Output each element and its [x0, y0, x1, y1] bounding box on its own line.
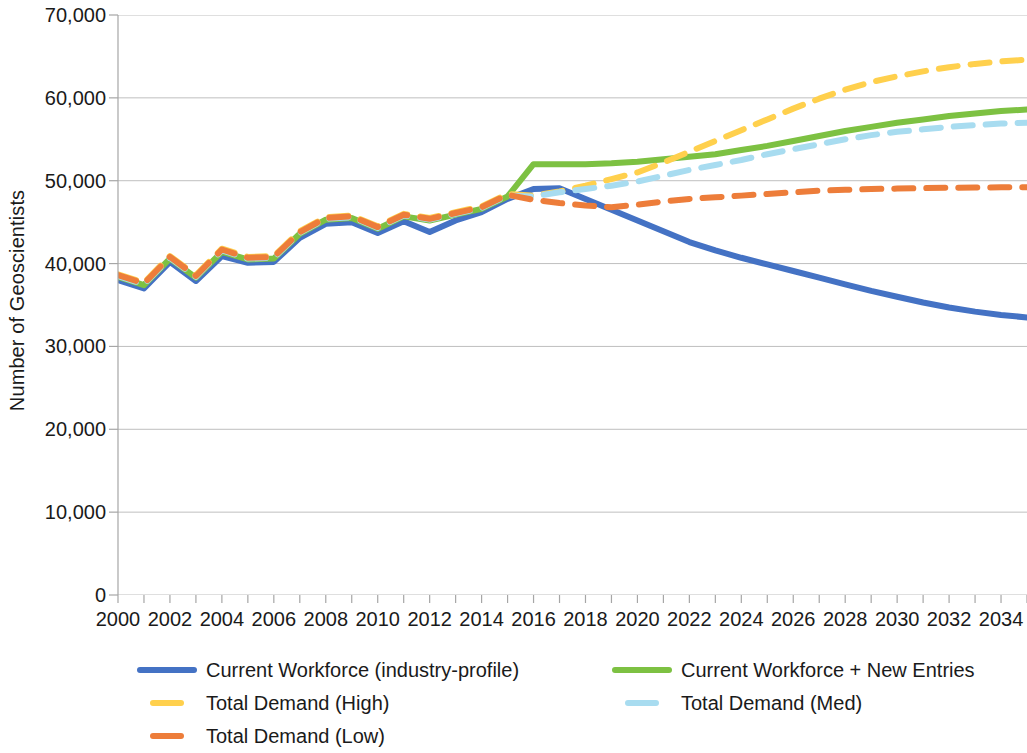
x-axis-tick-label: 2006 [252, 608, 297, 631]
y-axis-title-label: Number of Geoscientists [7, 189, 30, 410]
y-axis-tick-labels: 010,00020,00030,00040,00050,00060,00070,… [36, 0, 114, 620]
y-axis-tick-label: 40,000 [45, 252, 106, 275]
x-axis-tick-label: 2012 [407, 608, 452, 631]
chart-legend: Current Workforce (industry-profile)Curr… [0, 655, 1027, 753]
series-line-4 [118, 187, 1027, 283]
legend-swatch-icon [612, 667, 672, 673]
x-axis-ticks [118, 595, 1027, 603]
gridlines [118, 15, 1027, 595]
x-axis-tick-label: 2030 [875, 608, 920, 631]
x-axis-tick-label: 2000 [96, 608, 141, 631]
x-axis-tick-label: 2022 [667, 608, 712, 631]
legend-item[interactable]: Total Demand (Med) [612, 688, 862, 718]
y-axis-tick-label: 30,000 [45, 335, 106, 358]
y-axis-tick-label: 0 [95, 584, 106, 607]
x-axis-tick-label: 2018 [563, 608, 608, 631]
x-axis-tick-label: 2028 [823, 608, 868, 631]
x-axis-tick-label: 2010 [355, 608, 400, 631]
y-axis-title: Number of Geoscientists [0, 0, 36, 600]
series-lines [118, 60, 1027, 318]
y-axis-tick-label: 70,000 [45, 4, 106, 27]
series-line-0 [118, 188, 1027, 317]
plot-svg [118, 15, 1027, 595]
x-axis-tick-label: 2034 [979, 608, 1024, 631]
series-line-2 [118, 60, 1027, 283]
x-axis-tick-label: 2004 [200, 608, 245, 631]
y-axis-tick-label: 60,000 [45, 86, 106, 109]
legend-item[interactable]: Current Workforce (industry-profile) [137, 655, 519, 685]
x-axis-tick-label: 2032 [927, 608, 972, 631]
legend-swatch-icon [150, 733, 184, 739]
y-axis-tick-label: 20,000 [45, 418, 106, 441]
legend-item-label: Total Demand (High) [206, 693, 389, 713]
legend-item[interactable]: Total Demand (Low) [137, 721, 385, 751]
legend-item-label: Current Workforce (industry-profile) [206, 660, 519, 680]
y-axis-tick-label: 50,000 [45, 169, 106, 192]
legend-item[interactable]: Current Workforce + New Entries [612, 655, 975, 685]
legend-item-label: Total Demand (Low) [206, 726, 385, 746]
legend-item[interactable]: Total Demand (High) [137, 688, 389, 718]
x-axis-tick-label: 2026 [771, 608, 816, 631]
x-axis-tick-label: 2020 [615, 608, 660, 631]
legend-swatch-icon [150, 700, 184, 706]
plot-area [118, 15, 1027, 595]
legend-swatch-icon [625, 700, 659, 706]
geoscientist-workforce-chart: Number of Geoscientists 010,00020,00030,… [0, 0, 1027, 753]
x-axis-tick-labels: 2000200220042006200820102012201420162018… [0, 608, 1027, 642]
legend-item-label: Current Workforce + New Entries [681, 660, 975, 680]
legend-swatch-icon [137, 667, 197, 673]
legend-item-label: Total Demand (Med) [681, 693, 862, 713]
x-axis-tick-label: 2014 [459, 608, 504, 631]
x-axis-tick-label: 2002 [148, 608, 193, 631]
x-axis-tick-label: 2008 [304, 608, 349, 631]
x-axis-tick-label: 2024 [719, 608, 764, 631]
x-axis-tick-label: 2016 [511, 608, 556, 631]
y-axis-tick-label: 10,000 [45, 501, 106, 524]
